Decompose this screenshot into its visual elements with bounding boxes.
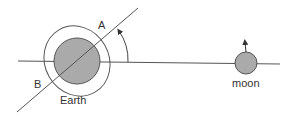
label-earth: Earth	[60, 94, 86, 106]
moon-motion-arrow	[245, 42, 246, 52]
earth-moon-diagram: A B Earth moon	[0, 0, 294, 118]
label-a: A	[98, 19, 106, 31]
angle-arc-arrow	[119, 31, 128, 62]
label-moon: moon	[232, 77, 260, 89]
label-b: B	[34, 78, 41, 90]
moon-circle	[235, 52, 257, 74]
